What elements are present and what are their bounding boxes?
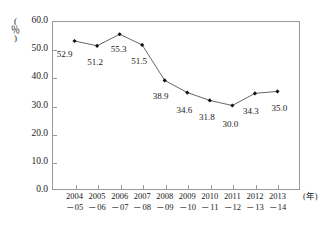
y-axis-tick-label: 10.0 bbox=[18, 157, 48, 167]
x-tick-label-year: 2013 bbox=[257, 191, 297, 202]
x-axis-tick-mark bbox=[233, 185, 234, 189]
y-axis-tick-label: 40.0 bbox=[18, 72, 48, 82]
x-axis-unit-label: (年) bbox=[303, 191, 318, 202]
data-point-value-label: 55.3 bbox=[104, 45, 134, 54]
y-axis-tick-mark bbox=[53, 163, 57, 164]
y-axis-tick-mark bbox=[53, 78, 57, 79]
y-axis-tick-label: 60.0 bbox=[18, 16, 48, 26]
data-point-value-label: 35.0 bbox=[264, 104, 294, 113]
x-axis-tick-mark bbox=[76, 185, 77, 189]
x-axis-tick-label: 2013－14 bbox=[257, 191, 297, 213]
x-tick-label-yearspan: －14 bbox=[257, 202, 297, 213]
x-axis-tick-mark bbox=[121, 185, 122, 189]
data-point-value-label: 52.9 bbox=[50, 50, 80, 59]
data-point-value-label: 38.9 bbox=[146, 92, 176, 101]
x-axis-tick-mark bbox=[166, 185, 167, 189]
data-point-value-label: 34.3 bbox=[236, 107, 266, 116]
x-axis-tick-mark bbox=[98, 185, 99, 189]
data-point-value-label: 51.5 bbox=[124, 57, 154, 66]
y-axis-tick-label: 30.0 bbox=[18, 101, 48, 111]
data-point-value-label: 51.2 bbox=[80, 58, 110, 67]
x-axis-tick-mark bbox=[256, 185, 257, 189]
y-axis-tick-mark bbox=[53, 107, 57, 108]
data-point-value-label: 30.0 bbox=[215, 120, 245, 129]
y-axis-tick-label: 20.0 bbox=[18, 129, 48, 139]
x-axis-tick-mark bbox=[143, 185, 144, 189]
y-axis-tick-mark bbox=[53, 135, 57, 136]
x-axis-tick-mark bbox=[278, 185, 279, 189]
y-axis-tick-label: 50.0 bbox=[18, 44, 48, 54]
x-axis-tick-mark bbox=[188, 185, 189, 189]
chart-figure: (％) 0.010.020.030.040.050.060.0 52.951.2… bbox=[0, 0, 330, 226]
x-axis-tick-mark bbox=[211, 185, 212, 189]
x-axis-tick-labels: (年) 2004－052005－062006－072007－082008－092… bbox=[0, 191, 330, 223]
